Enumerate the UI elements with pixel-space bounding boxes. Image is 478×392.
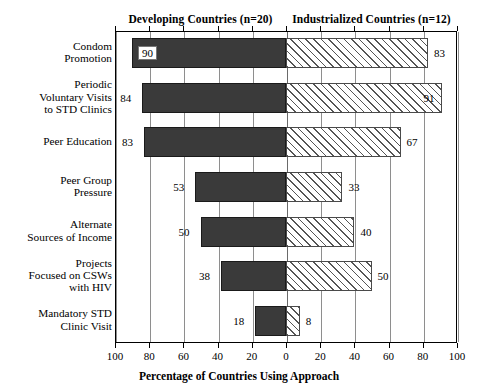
- category-label: CondomPromotion: [0, 40, 112, 65]
- category-label: Mandatory STDClinic Visit: [0, 307, 112, 332]
- axis-tick: [457, 343, 458, 348]
- axis-tick-label: 100: [437, 350, 477, 362]
- axis-tick-top: [252, 26, 253, 31]
- axis-tick-top: [423, 26, 424, 31]
- category-label-line: Projects: [0, 257, 112, 269]
- category-label-line: Periodic: [0, 78, 112, 90]
- axis-tick: [183, 343, 184, 348]
- gridline: [116, 32, 117, 342]
- bar-developing: [195, 172, 286, 202]
- bar-developing: [144, 127, 286, 157]
- bar-value-industrialized: 33: [348, 181, 359, 193]
- bar-value-developing: 18: [233, 315, 244, 327]
- bar-value-industrialized: 8: [306, 315, 312, 327]
- category-label-line: Alternate: [0, 218, 112, 230]
- bar-developing: [255, 306, 286, 336]
- axis-tick-top: [183, 26, 184, 31]
- axis-tick: [423, 343, 424, 348]
- bar-industrialized: [286, 127, 401, 157]
- axis-tick-top: [115, 26, 116, 31]
- bar-value-developing: 50: [179, 226, 190, 238]
- axis-tick-top: [457, 26, 458, 31]
- axis-tick-top: [149, 26, 150, 31]
- category-label-line: Promotion: [0, 52, 112, 64]
- category-label-line: Mandatory STD: [0, 307, 112, 319]
- axis-tick: [389, 343, 390, 348]
- axis-tick: [149, 343, 150, 348]
- axis-tick: [354, 343, 355, 348]
- axis-tick: [252, 343, 253, 348]
- axis-tick-top: [218, 26, 219, 31]
- axis-tick-top: [320, 26, 321, 31]
- bar-value-developing: 38: [199, 270, 210, 282]
- bar-value-developing: 53: [173, 181, 184, 193]
- column-header-developing: Developing Countries (n=20): [115, 13, 286, 25]
- category-label-line: Clinic Visit: [0, 320, 112, 332]
- bar-value-industrialized: 67: [407, 136, 418, 148]
- column-header-industrialized: Industrialized Countries (n=12): [286, 13, 457, 25]
- gridline: [390, 32, 391, 342]
- bar-value-developing: 84: [120, 92, 131, 104]
- category-label: PeriodicVoluntary Visitsto STD Clinics: [0, 78, 112, 115]
- gridline: [458, 32, 459, 342]
- category-label-line: Condom: [0, 40, 112, 52]
- category-label: ProjectsFocused on CSWswith HIV: [0, 257, 112, 294]
- bar-value-industrialized: 91: [424, 92, 435, 104]
- bar-value-industrialized: 50: [378, 270, 389, 282]
- category-label-line: with HIV: [0, 281, 112, 293]
- axis-tick: [115, 343, 116, 348]
- gridline: [424, 32, 425, 342]
- bar-industrialized: [286, 217, 354, 247]
- gridline: [184, 32, 185, 342]
- category-label-line: to STD Clinics: [0, 103, 112, 115]
- bar-industrialized: [286, 261, 372, 291]
- category-label: Peer GroupPressure: [0, 174, 112, 199]
- category-label-line: Focused on CSWs: [0, 269, 112, 281]
- category-label-line: Peer Education: [0, 135, 112, 147]
- bar-developing: [221, 261, 286, 291]
- bar-developing: [201, 217, 287, 247]
- category-label: Peer Education: [0, 135, 112, 147]
- bar-developing: [142, 83, 286, 113]
- axis-tick-top: [286, 26, 287, 31]
- bar-industrialized: [286, 83, 442, 113]
- category-label-line: Peer Group: [0, 174, 112, 186]
- category-label-line: Pressure: [0, 186, 112, 198]
- bar-value-developing: 83: [122, 136, 133, 148]
- chart-container: Developing Countries (n=20) Industrializ…: [0, 0, 478, 392]
- axis-tick-top: [389, 26, 390, 31]
- axis-tick: [218, 343, 219, 348]
- bar-value-industrialized: 40: [360, 226, 371, 238]
- category-label-line: Sources of Income: [0, 231, 112, 243]
- bar-value-industrialized: 83: [434, 47, 445, 59]
- bar-industrialized: [286, 38, 428, 68]
- axis-tick: [320, 343, 321, 348]
- category-label-line: Voluntary Visits: [0, 91, 112, 103]
- x-axis-title: Percentage of Countries Using Approach: [0, 370, 478, 382]
- axis-tick-top: [354, 26, 355, 31]
- category-label: AlternateSources of Income: [0, 218, 112, 243]
- axis-tick: [286, 343, 287, 348]
- bar-value-developing: 90: [138, 46, 157, 60]
- bar-industrialized: [286, 172, 342, 202]
- gridline: [150, 32, 151, 342]
- bar-industrialized: [286, 306, 300, 336]
